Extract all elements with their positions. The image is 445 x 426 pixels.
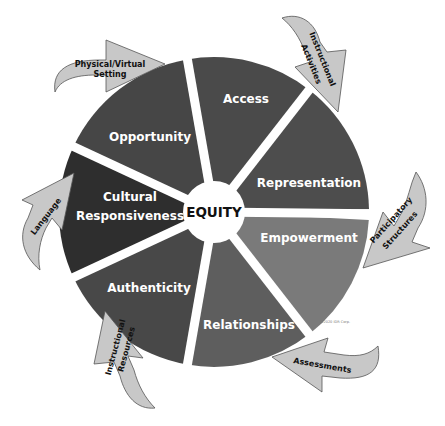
arrow-label: Physical/Virtual xyxy=(75,60,146,69)
copyright-text: ©2020 IDR Corp. xyxy=(320,320,350,324)
label-relationships: Relationships xyxy=(203,318,295,332)
label-opportunity: Opportunity xyxy=(109,130,191,144)
label-authenticity: Authenticity xyxy=(107,281,191,295)
center-label-equity: EQUITY xyxy=(186,204,242,220)
label-access: Access xyxy=(223,92,269,106)
label-responsiveness: Responsiveness xyxy=(76,209,184,223)
arrow-participatory-structures: Participatory Structures xyxy=(363,172,430,268)
label-cultural: Cultural xyxy=(103,190,157,204)
equity-diagram: Access Representation Empowerment Relati… xyxy=(0,0,445,426)
arrow-label: Setting xyxy=(94,70,127,79)
label-empowerment: Empowerment xyxy=(260,231,358,245)
label-representation: Representation xyxy=(257,176,361,190)
